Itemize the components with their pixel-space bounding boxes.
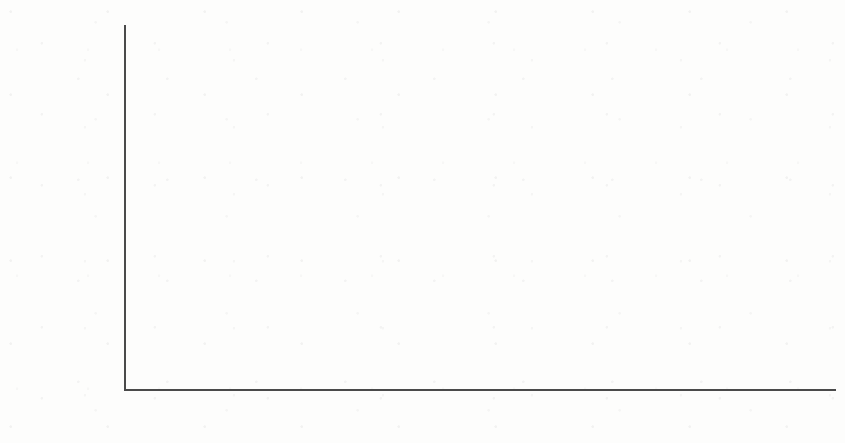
bar-series — [0, 0, 845, 443]
bar-chart — [0, 0, 845, 443]
